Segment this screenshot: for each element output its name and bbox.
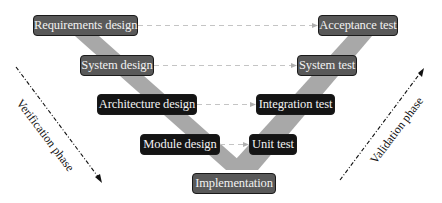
node-acceptance-test: Acceptance test — [318, 15, 398, 36]
node-system-test: System test — [297, 55, 357, 76]
node-unit-test: Unit test — [249, 134, 297, 155]
node-architecture-design: Architecture design — [97, 94, 197, 115]
node-integration-test: Integration test — [256, 94, 335, 115]
arrowhead-up-icon — [418, 68, 424, 77]
node-implementation: Implementation — [192, 173, 276, 194]
node-module-design: Module design — [140, 134, 220, 155]
node-system-design: System design — [80, 55, 154, 76]
arrowhead-down-icon — [95, 174, 102, 183]
node-requirements-design: Requirements design — [33, 15, 138, 36]
